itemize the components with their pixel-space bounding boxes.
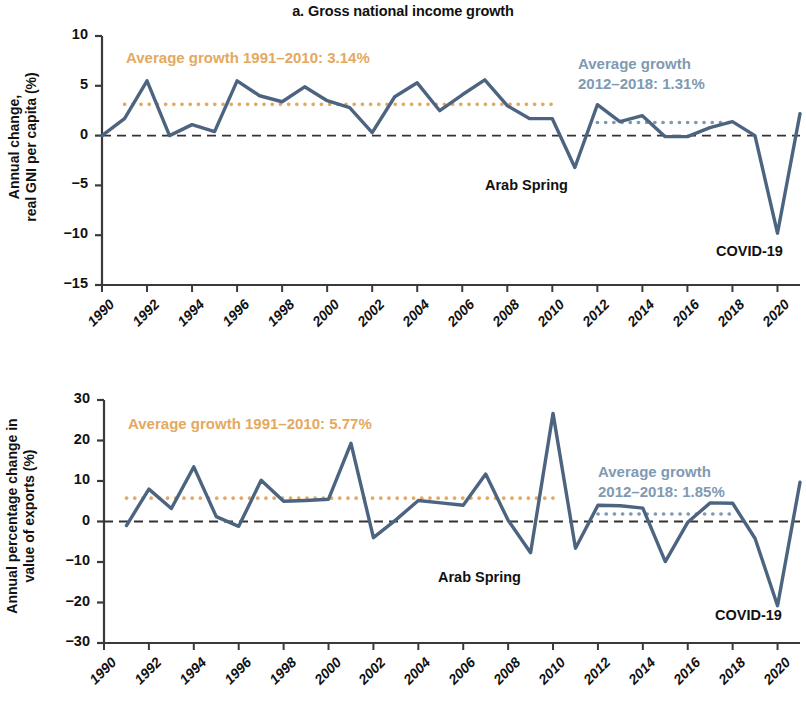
panel_b-y-tick-label: −10 xyxy=(42,552,90,568)
panel-b-average-growth-2012-2018-label: Average growth 2012–2018: 1.85% xyxy=(598,462,725,502)
panel-b-average-growth-1991-2010-label: Average growth 1991–2010: 5.77% xyxy=(128,414,372,434)
panel_b-y-tick-label: 0 xyxy=(42,512,90,528)
panel_a-y-tick-label: 10 xyxy=(40,26,88,42)
panel_b-y-tick-label: 30 xyxy=(42,390,90,406)
panel_b-y-tick-label: 20 xyxy=(42,431,90,447)
panel-b-annotation-arab-spring: Arab Spring xyxy=(438,569,521,585)
panel-b-plot xyxy=(0,0,806,706)
panel_b-y-tick-label: −20 xyxy=(42,593,90,609)
panel_a-y-tick-label: 5 xyxy=(40,76,88,92)
panel_b-y-tick-label: −30 xyxy=(42,633,90,649)
panel_a-y-tick-label: −5 xyxy=(40,175,88,191)
panel_a-y-tick-label: −15 xyxy=(40,275,88,291)
panel_a-y-tick-label: 0 xyxy=(40,126,88,142)
panel-b-annotation-covid-19: COVID-19 xyxy=(715,607,782,623)
panel_a-y-tick-label: −10 xyxy=(40,225,88,241)
figure-root: a. Gross national income growth Annual c… xyxy=(0,0,806,706)
panel-b-avg-blue-line1: Average growth xyxy=(598,462,725,482)
panel_b-y-tick-label: 10 xyxy=(42,471,90,487)
panel-b-avg-blue-line2: 2012–2018: 1.85% xyxy=(598,482,725,502)
